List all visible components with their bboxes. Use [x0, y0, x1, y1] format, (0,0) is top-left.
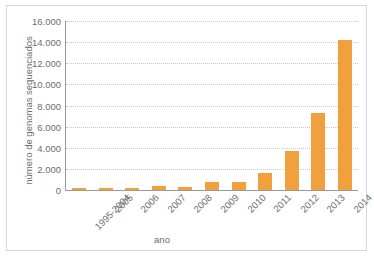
y-axis-tick-label: 2.000: [7, 163, 61, 174]
bar-slot: [146, 21, 173, 190]
bar-series: [66, 21, 358, 190]
bar: [338, 40, 352, 190]
x-axis-tick-label: 2006: [139, 192, 162, 215]
bar: [205, 182, 219, 190]
x-axis-tick-label: 2012: [298, 192, 321, 215]
x-axis-tick-label: 2009: [218, 192, 241, 215]
bar: [72, 188, 86, 190]
x-axis-tick-label: 2007: [165, 192, 188, 215]
x-axis-title: ano: [0, 234, 372, 245]
y-axis-tick-label: 16.000: [7, 16, 61, 27]
x-axis-tick-label: 2008: [192, 192, 215, 215]
x-axis-tick-labels: 1995-20042005200620072008200920102011201…: [66, 192, 358, 236]
bar: [152, 186, 166, 190]
bar-slot: [172, 21, 199, 190]
bar-slot: [225, 21, 252, 190]
y-axis-tick-label: 0: [7, 185, 61, 196]
bar: [178, 187, 192, 190]
bar: [232, 182, 246, 190]
bar-slot: [252, 21, 279, 190]
bar-slot: [66, 21, 93, 190]
plot-area: [66, 21, 358, 190]
bar-slot: [305, 21, 332, 190]
bar-slot: [199, 21, 226, 190]
y-axis-tick-label: 14.000: [7, 37, 61, 48]
x-axis-tick-label: 2013: [324, 192, 347, 215]
bar-slot: [93, 21, 120, 190]
y-axis-tick-label: 10.000: [7, 79, 61, 90]
x-axis-tick-label: 2010: [245, 192, 268, 215]
x-axis-tick-label: 2011: [271, 192, 293, 214]
bar-slot: [119, 21, 146, 190]
bar: [99, 188, 113, 190]
y-axis-tick-label: 6.000: [7, 121, 61, 132]
y-axis-tick-label: 8.000: [7, 100, 61, 111]
bar-slot: [278, 21, 305, 190]
x-axis-tick-label: 2014: [351, 192, 374, 215]
y-axis-tick-label: 12.000: [7, 58, 61, 69]
bar: [285, 151, 299, 190]
bar-slot: [331, 21, 358, 190]
y-axis-tick-label: 4.000: [7, 142, 61, 153]
gridline: [66, 190, 358, 191]
bar: [125, 188, 139, 190]
bar: [258, 173, 272, 190]
bar: [311, 113, 325, 190]
